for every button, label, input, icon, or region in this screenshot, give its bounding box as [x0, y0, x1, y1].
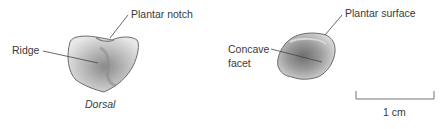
plantar-surface-label: Plantar surface: [345, 7, 416, 19]
dorsal-bone-illustration: [68, 36, 138, 92]
facet-bone-illustration: [278, 33, 335, 79]
ridge-label: Ridge: [12, 44, 39, 56]
concave-facet-label-line1: Concave: [228, 43, 269, 55]
scale-bar-label: 1 cm: [383, 106, 406, 118]
concave-facet-label-line2: facet: [228, 57, 251, 69]
plantar-notch-label: Plantar notch: [131, 8, 193, 20]
dorsal-caption: Dorsal: [85, 98, 115, 110]
figure-artwork: [0, 0, 444, 129]
plantar-notch-leader-line: [110, 15, 128, 38]
scale-bar: [356, 91, 434, 99]
plantar-surface-leader-line: [325, 15, 342, 35]
